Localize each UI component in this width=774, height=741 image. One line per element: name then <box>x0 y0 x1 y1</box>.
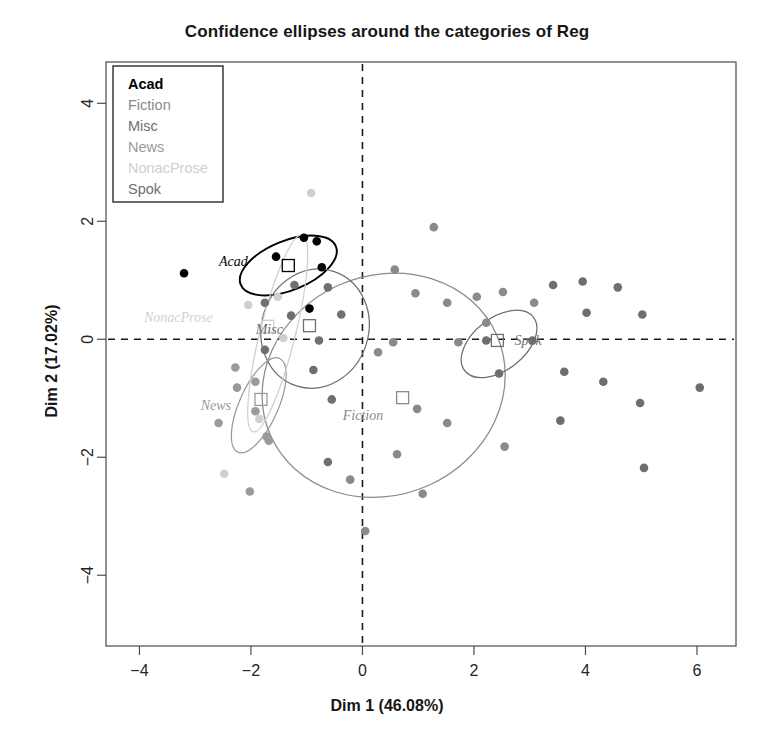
y-tick-label: −4 <box>79 566 96 584</box>
x-axis-label: Dim 1 (46.08%) <box>0 697 774 715</box>
data-point <box>346 475 355 484</box>
data-point <box>317 263 326 272</box>
figure: Confidence ellipses around the categorie… <box>0 0 774 741</box>
group-label-news: News <box>200 398 232 413</box>
data-point <box>393 450 402 459</box>
data-point <box>324 283 333 292</box>
scatter-plot: −4−20246−4−2024 AcadFictionMiscNewsNonac… <box>0 0 774 741</box>
y-axis-label: Dim 2 (17.02%) <box>43 51 61 671</box>
centroid-marker-fiction <box>397 392 409 404</box>
group-label-fiction: Fiction <box>342 408 383 423</box>
group-label-spok: Spok <box>515 333 543 348</box>
data-point <box>251 407 260 416</box>
data-point <box>324 458 333 467</box>
data-point <box>374 348 383 357</box>
data-point <box>361 527 370 536</box>
data-point <box>638 310 647 319</box>
data-point <box>500 442 509 451</box>
data-point <box>556 416 565 425</box>
x-tick-label: 0 <box>358 662 367 679</box>
x-tick-label: 4 <box>581 662 590 679</box>
data-point <box>599 377 608 386</box>
data-point <box>246 487 255 496</box>
data-point <box>309 366 318 375</box>
confidence-ellipse-fiction <box>226 235 541 536</box>
data-point <box>530 298 539 307</box>
data-point <box>443 419 452 428</box>
data-point <box>261 346 270 355</box>
data-point <box>443 298 452 307</box>
data-point <box>430 223 439 232</box>
data-point <box>413 405 422 414</box>
data-point <box>244 301 253 310</box>
data-point <box>549 281 558 290</box>
data-point <box>411 289 420 298</box>
data-point <box>578 277 587 286</box>
data-point <box>390 265 399 274</box>
data-point <box>312 237 321 246</box>
legend-item-spok[interactable]: Spok <box>128 181 162 197</box>
centroid-marker-misc <box>303 320 315 332</box>
data-point <box>290 281 299 290</box>
data-point <box>418 490 427 499</box>
data-point <box>560 367 569 376</box>
confidence-ellipses <box>220 223 549 536</box>
data-point <box>273 292 282 301</box>
data-point <box>233 383 242 392</box>
legend-item-fiction[interactable]: Fiction <box>128 97 171 113</box>
legend-item-nonacprose[interactable]: NonacProse <box>128 160 208 176</box>
group-label-nonacprose: NonacProse <box>143 310 213 325</box>
x-tick-label: −4 <box>130 662 148 679</box>
data-point <box>315 336 324 345</box>
data-point <box>640 464 649 473</box>
data-point <box>307 189 316 198</box>
data-point <box>220 469 229 478</box>
data-point <box>454 338 463 347</box>
data-point <box>482 318 491 327</box>
y-tick-label: 0 <box>79 335 96 344</box>
data-point <box>499 288 508 297</box>
data-point <box>255 415 264 424</box>
centroid-marker-news <box>255 393 267 405</box>
data-point <box>337 310 346 319</box>
data-points <box>180 189 704 536</box>
data-point <box>389 338 398 347</box>
legend-item-acad[interactable]: Acad <box>128 76 163 92</box>
data-point <box>636 399 645 408</box>
data-point <box>261 298 270 307</box>
data-point <box>264 436 273 445</box>
data-point <box>300 233 309 242</box>
data-point <box>614 283 623 292</box>
data-point <box>695 383 704 392</box>
data-point <box>272 252 281 261</box>
legend[interactable]: AcadFictionMiscNewsNonacProseSpok <box>113 66 223 202</box>
data-point <box>582 308 591 317</box>
y-tick-label: 4 <box>79 99 96 108</box>
data-point <box>180 269 189 278</box>
data-point <box>231 363 240 372</box>
y-tick-label: 2 <box>79 217 96 226</box>
data-point <box>251 377 260 386</box>
data-point <box>305 304 314 313</box>
centroid-marker-acad <box>282 260 294 272</box>
confidence-ellipse-acad <box>231 223 345 307</box>
legend-item-news[interactable]: News <box>128 139 164 155</box>
data-point <box>472 292 481 301</box>
legend-item-misc[interactable]: Misc <box>128 118 158 134</box>
group-label-misc: Misc <box>255 322 284 337</box>
y-tick-label: −2 <box>79 448 96 466</box>
x-tick-label: 6 <box>693 662 702 679</box>
group-label-acad: Acad <box>218 254 249 269</box>
x-tick-label: 2 <box>470 662 479 679</box>
data-point <box>327 395 336 404</box>
data-point <box>495 369 504 378</box>
data-point <box>214 419 223 428</box>
x-tick-label: −2 <box>242 662 260 679</box>
data-point <box>482 336 491 345</box>
data-point <box>287 311 296 320</box>
